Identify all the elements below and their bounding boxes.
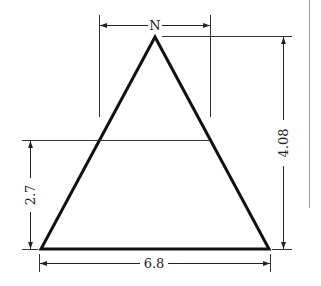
- triangle-dimension-diagram: N 4.08 2.7 6.8: [0, 0, 321, 286]
- cut-height-label: 2.7: [23, 185, 38, 206]
- top-label: N: [149, 18, 160, 33]
- diagram-svg: N 4.08 2.7 6.8: [0, 0, 321, 286]
- height-total-label: 4.08: [276, 129, 291, 158]
- base-width-label: 6.8: [144, 256, 165, 271]
- triangle-shape: [41, 37, 269, 249]
